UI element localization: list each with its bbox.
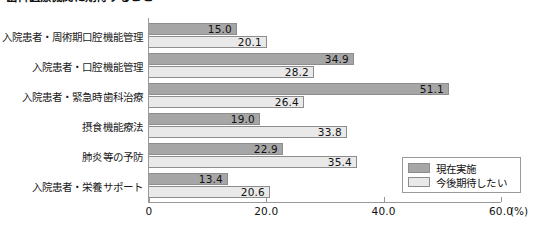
bar-future[interactable]: 20.6 [149,186,270,198]
x-axis-line [148,202,501,203]
x-axis-tick-label: 20.0 [241,205,291,217]
bar-value-label: 26.4 [275,96,303,108]
legend-swatch [408,163,430,173]
x-axis-tick-label: 0 [124,205,174,217]
bar-future[interactable]: 33.8 [149,126,347,138]
bar-row: 入院患者・緊急時歯科治療51.126.4 [0,82,543,110]
bar-value-label: 35.4 [328,156,356,168]
category-label: 入院患者・周術期口腔機能管理 [0,22,143,50]
category-label: 摂食機能療法 [0,112,143,140]
bar-chart: 歯科医療機関に期待すること 入院患者・周術期口腔機能管理15.020.1入院患者… [0,0,543,228]
category-label: 入院患者・口腔機能管理 [0,52,143,80]
x-axis-tick-label: 40.0 [359,205,409,217]
bar-future[interactable]: 28.2 [149,66,314,78]
bar-value-label: 22.9 [254,143,282,155]
bar-current[interactable]: 51.1 [149,83,449,95]
chart-legend: 現在実施今後期待したい [402,157,521,193]
plot-area: 入院患者・周術期口腔機能管理15.020.1入院患者・口腔機能管理34.928.… [0,0,543,228]
legend-label: 今後期待したい [436,175,507,190]
x-axis-unit-label: (%) [510,205,528,217]
bar-value-label: 19.0 [231,113,259,125]
category-label: 入院患者・栄養サポート [0,172,143,200]
bar-current[interactable]: 34.9 [149,53,354,65]
category-label: 入院患者・緊急時歯科治療 [0,82,143,110]
legend-item[interactable]: 今後期待したい [408,175,515,189]
bar-value-label: 13.4 [199,173,227,185]
category-label: 肺炎等の予防 [0,142,143,170]
bar-future[interactable]: 20.1 [149,36,267,48]
bar-row: 摂食機能療法19.033.8 [0,112,543,140]
bar-value-label: 33.8 [318,126,346,138]
bar-value-label: 34.9 [325,53,353,65]
bar-current[interactable]: 15.0 [149,23,237,35]
bar-value-label: 15.0 [208,23,236,35]
bar-current[interactable]: 22.9 [149,143,283,155]
bar-current[interactable]: 19.0 [149,113,260,125]
bar-future[interactable]: 35.4 [149,156,357,168]
legend-label: 現在実施 [436,161,476,176]
bar-row: 入院患者・周術期口腔機能管理15.020.1 [0,22,543,50]
bar-value-label: 51.1 [420,83,448,95]
bar-current[interactable]: 13.4 [149,173,228,185]
bar-value-label: 20.1 [238,36,266,48]
legend-item[interactable]: 現在実施 [408,161,515,175]
bar-row: 入院患者・口腔機能管理34.928.2 [0,52,543,80]
legend-swatch [408,177,430,187]
bar-value-label: 28.2 [285,66,313,78]
bar-future[interactable]: 26.4 [149,96,304,108]
bar-value-label: 20.6 [241,186,269,198]
